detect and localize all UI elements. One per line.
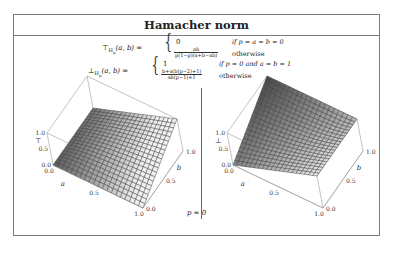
tconorm-surface-plot: 0.00.51.0⊥0.00.51.0a0.00.51.0b [215, 76, 376, 217]
b-axis-label: b [177, 164, 182, 172]
a-tick-label: 0.5 [89, 189, 99, 196]
a-axis-label: a [241, 180, 245, 188]
b-axis-label: b [357, 164, 362, 172]
b-tick-label: 1.0 [186, 148, 196, 155]
tnorm-surface-plot: 0.00.51.0⊤0.00.51.0a0.00.51.0b [35, 76, 196, 217]
a-tick-label: 1.0 [314, 210, 324, 217]
box-edge [177, 119, 183, 151]
z-tick-label: 0.5 [38, 145, 48, 152]
z-axis-label: ⊥ [215, 137, 222, 145]
a-tick-label: 1.0 [134, 210, 144, 217]
z-tick-label: 0.5 [218, 145, 228, 152]
plots-canvas: 0.00.51.0⊤0.00.51.0a0.00.51.0b 0.00.51.0… [0, 0, 401, 253]
a-tick-label: 0.0 [224, 167, 234, 174]
a-tick-label: 0.0 [44, 167, 54, 174]
b-tick-label: 0.0 [146, 205, 156, 212]
b-axis-front [323, 151, 363, 208]
box-edge [317, 176, 323, 208]
box-edge [47, 76, 87, 133]
z-tick-label: 1.0 [215, 129, 225, 136]
b-tick-label: 0.0 [326, 205, 336, 212]
b-tick-label: 0.5 [166, 177, 176, 184]
box-edge [357, 119, 363, 151]
z-tick-label: 1.0 [35, 129, 45, 136]
z-axis-label: ⊤ [35, 137, 42, 145]
b-tick-label: 1.0 [366, 148, 376, 155]
box-edge [87, 76, 93, 108]
a-tick-label: 0.5 [269, 189, 279, 196]
b-tick-label: 0.5 [346, 177, 356, 184]
a-axis-label: a [61, 180, 65, 188]
